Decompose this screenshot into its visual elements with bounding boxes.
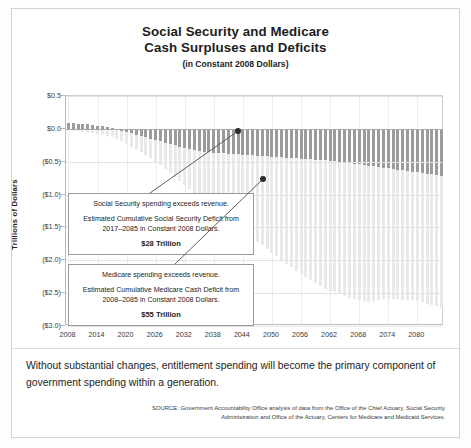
bar-segment-medicare (149, 139, 152, 159)
callout-mc-amount: $55 Trillion (75, 310, 247, 319)
chart-subtitle: (in Constant 2008 Dollars) (0, 59, 471, 69)
x-tick-label: 2044 (234, 330, 250, 339)
bar-segment-medicare (319, 160, 322, 286)
bar-segment-medicare (270, 157, 273, 253)
bar-segment-social-security (411, 129, 414, 172)
bar-segment-social-security (266, 129, 269, 157)
bar-segment-medicare (348, 163, 351, 298)
x-tick-label: 2020 (118, 330, 134, 339)
callout-ss-line1: Social Security spending exceeds revenue… (75, 199, 247, 209)
x-tick-label: 2014 (89, 330, 105, 339)
y-tick-label: $0.5 (47, 91, 61, 100)
bar-segment-social-security (333, 129, 336, 161)
x-tick-label: 2062 (321, 330, 337, 339)
y-tick-label: ($1.0) (42, 189, 61, 198)
bar-segment-social-security (363, 129, 366, 165)
bar-segment-medicare (392, 169, 395, 299)
bar-segment-medicare (300, 159, 303, 274)
bar-segment-social-security (237, 129, 240, 155)
bar-segment-social-security (178, 129, 181, 147)
bar-segment-medicare (396, 170, 399, 299)
bar-segment-medicare (377, 167, 380, 300)
chart-source: SOURCE: Government Accountability Office… (120, 404, 445, 421)
bar-segment-medicare (290, 158, 293, 267)
bar-segment-medicare (198, 151, 201, 198)
bar-segment-medicare (111, 129, 114, 137)
bar-segment-social-security (324, 129, 327, 161)
y-tick-label: $0.0 (47, 123, 61, 132)
bar-segment-social-security (188, 129, 191, 149)
bar-segment-social-security (183, 129, 186, 148)
bar-segment-medicare (125, 132, 128, 144)
callout-ss-amount: $28 Trillion (75, 239, 247, 248)
bar-segment-medicare (183, 148, 186, 185)
bar-segment-social-security (304, 129, 307, 159)
bar-segment-social-security (309, 129, 312, 160)
bar-segment-social-security (295, 129, 298, 159)
bar-segment-medicare (188, 149, 191, 189)
bar-segment-medicare (363, 165, 366, 301)
gridline (66, 162, 442, 163)
bar-segment-medicare (387, 168, 390, 299)
chart-page: Social Security and Medicare Cash Surplu… (0, 0, 471, 448)
bar-segment-social-security (440, 129, 443, 176)
bar-segment-social-security (426, 129, 429, 174)
bar-segment-medicare (309, 159, 312, 279)
bar-segment-medicare (411, 172, 414, 301)
bar-segment-medicare (154, 140, 157, 162)
bar-column (439, 96, 444, 324)
x-tick-label: 2074 (379, 330, 395, 339)
bar-segment-social-security (358, 129, 361, 164)
bar-segment-medicare (406, 171, 409, 300)
bar-segment-medicare (115, 130, 118, 139)
bar-segment-social-security (164, 129, 167, 143)
bar-segment-medicare (280, 157, 283, 260)
bar-segment-social-security (154, 129, 157, 140)
x-tick-label: 2050 (263, 330, 279, 339)
y-tick-label: ($2.5) (42, 288, 61, 297)
bar-segment-social-security (401, 129, 404, 170)
gridline (66, 326, 442, 327)
bar-segment-social-security (406, 129, 409, 171)
x-tick-label: 2008 (59, 330, 75, 339)
bar-segment-medicare (358, 164, 361, 300)
zero-line (66, 129, 442, 130)
bar-segment-social-security (140, 129, 143, 136)
x-axis-labels: 2008201420202026203220382044205020562062… (65, 330, 443, 344)
section-divider (12, 348, 459, 349)
y-tick-label: ($2.0) (42, 255, 61, 264)
bar-segment-social-security (319, 129, 322, 160)
bar-segment-social-security (367, 129, 370, 166)
bar-segment-medicare (314, 160, 317, 283)
bar-segment-social-security (149, 129, 152, 139)
bar-segment-social-security (207, 129, 210, 152)
bar-segment-social-security (169, 129, 172, 144)
gridline (66, 260, 442, 261)
bar-segment-social-security (290, 129, 293, 158)
bar-segment-social-security (144, 129, 147, 138)
bar-segment-social-security (198, 129, 201, 151)
y-tick-label: ($1.5) (42, 222, 61, 231)
bar-segment-social-security (435, 129, 438, 175)
bar-segment-medicare (266, 156, 269, 249)
bar-segment-social-security (203, 129, 206, 152)
bar-segment-medicare (106, 129, 109, 136)
bar-segment-social-security (338, 129, 341, 162)
bar-segment-medicare (261, 156, 264, 245)
x-tick-label: 2080 (408, 330, 424, 339)
chart-caption: Without substantial changes, entitlement… (26, 357, 446, 391)
bar-segment-medicare (164, 143, 167, 169)
bar-segment-medicare (372, 166, 375, 301)
callout-social-security: Social Security spending exceeds revenue… (68, 193, 254, 255)
bar-segment-medicare (343, 162, 346, 296)
chart-title-line2: Cash Surpluses and Deficits (0, 40, 471, 56)
bar-segment-social-security (392, 129, 395, 169)
bar-segment-medicare (329, 161, 332, 291)
y-tick-label: ($0.5) (42, 156, 61, 165)
bar-segment-medicare (382, 168, 385, 299)
bar-segment-medicare (140, 136, 143, 152)
bar-segment-social-security (300, 129, 303, 159)
bar-segment-medicare (295, 158, 298, 270)
bar-segment-social-security (232, 129, 235, 154)
chart-title-block: Social Security and Medicare Cash Surplu… (0, 24, 471, 69)
